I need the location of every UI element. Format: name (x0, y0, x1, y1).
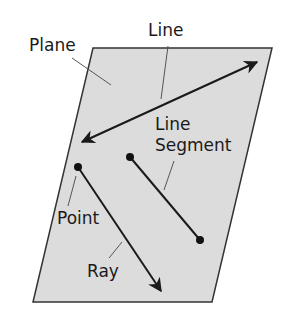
segment-label-line: Line (155, 116, 190, 133)
point-dot (74, 163, 82, 171)
ray-label: Ray (87, 263, 119, 280)
plane-shape (33, 48, 272, 302)
line-label: Line (148, 22, 183, 39)
segment-endpoint-b (196, 236, 204, 244)
plane-label: Plane (29, 37, 76, 54)
segment-endpoint-a (126, 153, 134, 161)
segment-label-segment: Segment (155, 137, 232, 154)
geometry-diagram: Plane Line Line Segment Point Ray (0, 0, 282, 318)
point-label: Point (57, 210, 99, 227)
